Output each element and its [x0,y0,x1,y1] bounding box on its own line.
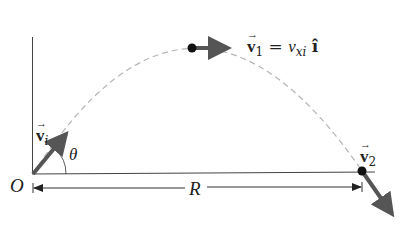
range-label: R [189,179,201,198]
peak-velocity-label: v1 = vxi î [247,38,318,58]
trajectory-path [33,48,362,174]
origin-label: O [10,176,24,195]
angle-arc [55,149,66,174]
final-velocity-label: v2 [360,148,376,168]
peak-point [188,44,197,53]
x-axis [32,172,375,174]
initial-velocity-label: vi [36,127,48,147]
final-velocity-arrow [362,171,392,214]
projectile-diagram [0,0,408,237]
angle-label: θ [69,146,77,163]
